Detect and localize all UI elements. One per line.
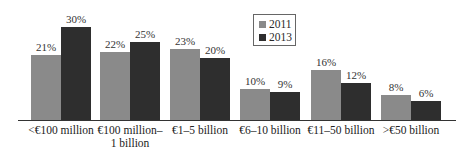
value-label: 21% [26,41,66,53]
value-label: 25% [125,28,165,40]
bar-2011 [240,89,270,120]
value-label: 12% [336,69,376,81]
bar-2013 [130,42,160,120]
category-label: >€50 billion [371,124,451,137]
category-label: €1–5 billion [160,124,240,137]
value-label: 9% [265,78,305,90]
legend-label-2013: 2013 [269,31,292,43]
value-label: 6% [406,87,446,99]
legend: 2011 2013 [253,14,296,46]
legend-swatch-2011 [259,21,266,28]
value-label: 30% [56,13,96,25]
legend-swatch-2013 [259,34,266,41]
category-label: €6–10 billion [230,124,310,137]
grouped-bar-chart: 2011 2013 21%30%<€100 million22%25%€100 … [0,0,469,156]
value-label: 20% [195,44,235,56]
category-label: €11–50 billion [301,124,381,137]
bar-2013 [411,101,441,120]
bar-2011 [100,52,130,120]
bar-2011 [31,55,61,120]
legend-item-2013: 2013 [259,31,292,43]
category-label: €100 million–1 billion [90,124,170,150]
category-label: <€100 million [21,124,101,137]
legend-item-2011: 2011 [259,18,292,30]
bar-2013 [270,92,300,120]
bar-2013 [200,58,230,120]
legend-label-2011: 2011 [269,18,292,30]
value-label: 16% [306,56,346,68]
bar-2013 [61,27,91,120]
bar-2013 [341,83,371,120]
bar-2011 [170,49,200,120]
x-axis-line [18,120,456,121]
